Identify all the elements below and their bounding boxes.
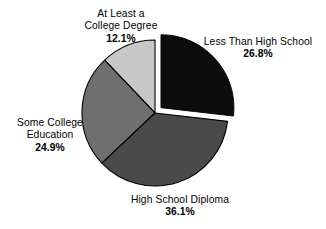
slice-label-college-degree-line1: At Least a [66,8,176,20]
slice-label-college-degree-line2: College Degree [66,20,176,32]
slice-value-less-than-hs: 26.8% [196,48,320,60]
slice-label-less-than-hs: Less Than High School 26.8% [196,36,320,61]
slice-value-hs-diploma: 36.1% [110,206,250,218]
slice-label-some-college: Some College Education 24.9% [2,117,98,154]
slice-label-less-than-hs-line1: Less Than High School [196,36,320,48]
slice-label-hs-diploma-line1: High School Diploma [110,194,250,206]
slice-label-college-degree: At Least a College Degree 12.1% [66,8,176,45]
pie-chart-figure: At Least a College Degree 12.1% Less Tha… [0,0,326,229]
slice-label-some-college-line2: Education [2,129,98,141]
slice-label-some-college-line1: Some College [2,117,98,129]
slice-value-some-college: 24.9% [2,142,98,154]
slice-label-hs-diploma: High School Diploma 36.1% [110,194,250,219]
slice-value-college-degree: 12.1% [66,33,176,45]
